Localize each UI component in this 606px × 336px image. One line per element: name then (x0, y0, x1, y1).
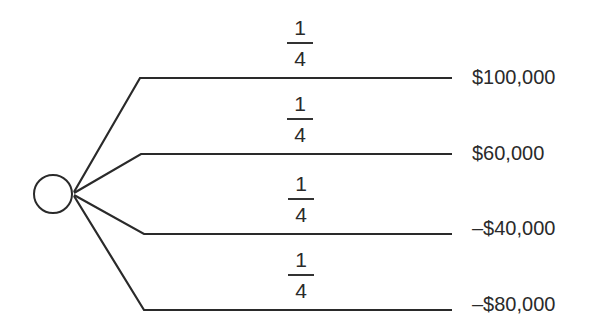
probability-denominator: 4 (281, 205, 321, 225)
fraction-bar (288, 274, 314, 276)
branch-line-4 (74, 196, 452, 310)
probability-label-3: 1 4 (281, 174, 321, 225)
branch-line-2 (74, 154, 452, 193)
payoff-label-4: –$80,000 (472, 293, 555, 315)
probability-denominator: 4 (280, 125, 320, 145)
probability-numerator: 1 (281, 250, 321, 270)
probability-numerator: 1 (280, 94, 320, 114)
branch-line-1 (74, 78, 452, 192)
fraction-bar (287, 118, 313, 120)
payoff-label-1: $100,000 (472, 66, 555, 88)
fraction-bar (287, 42, 313, 44)
probability-numerator: 1 (281, 174, 321, 194)
probability-numerator: 1 (280, 18, 320, 38)
fraction-bar (288, 198, 314, 200)
probability-denominator: 4 (281, 281, 321, 301)
probability-label-1: 1 4 (280, 18, 320, 69)
payoff-label-2: $60,000 (472, 142, 544, 164)
probability-label-2: 1 4 (280, 94, 320, 145)
branch-line-3 (74, 195, 452, 234)
payoff-label-3: –$40,000 (472, 217, 555, 239)
chance-node (34, 175, 72, 213)
probability-denominator: 4 (280, 49, 320, 69)
probability-label-4: 1 4 (281, 250, 321, 301)
